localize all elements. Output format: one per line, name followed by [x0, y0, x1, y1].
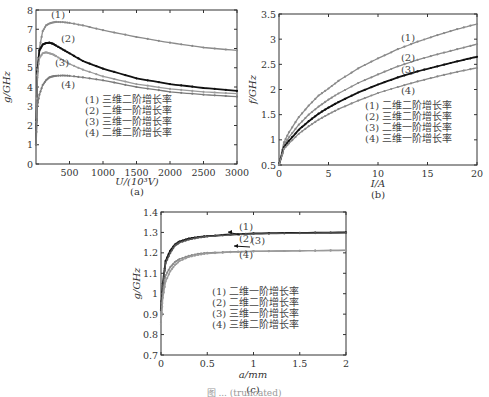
x-axis-label: a/mm — [239, 369, 267, 380]
data-marker — [161, 314, 163, 316]
data-marker — [344, 89, 346, 91]
data-marker — [304, 123, 306, 125]
y-tick-label: 3 — [27, 101, 33, 112]
data-marker — [456, 48, 458, 50]
data-marker — [200, 236, 202, 238]
data-marker — [214, 88, 216, 90]
data-marker — [44, 26, 46, 28]
data-marker — [443, 32, 445, 34]
y-tick-label: 1 — [152, 288, 158, 299]
y-tick-label: 0 — [27, 159, 33, 170]
data-marker — [68, 75, 70, 77]
x-tick-label: 3000 — [225, 167, 249, 178]
data-marker — [113, 78, 115, 80]
data-marker — [456, 60, 458, 62]
data-marker — [469, 25, 471, 27]
data-marker — [57, 21, 59, 23]
y-tick-label: 1.1 — [143, 268, 158, 279]
data-marker — [102, 68, 104, 70]
data-marker — [188, 256, 190, 258]
data-marker — [206, 252, 208, 254]
data-marker — [57, 46, 59, 48]
data-marker — [169, 88, 171, 90]
curve-annotation: (1) — [239, 221, 253, 232]
data-marker — [403, 46, 405, 48]
data-marker — [423, 38, 425, 40]
data-marker — [37, 101, 39, 103]
data-marker — [384, 81, 386, 83]
data-marker — [294, 136, 296, 138]
data-marker — [476, 67, 478, 69]
data-marker — [77, 67, 79, 69]
data-marker — [191, 45, 193, 47]
data-marker — [194, 237, 196, 239]
data-marker — [351, 85, 353, 87]
y-tick-label: 1.4 — [143, 207, 158, 218]
data-marker — [291, 136, 293, 138]
data-marker — [60, 75, 62, 77]
data-marker — [202, 46, 204, 48]
data-marker — [450, 72, 452, 74]
data-marker — [169, 252, 171, 254]
data-marker — [364, 64, 366, 66]
data-marker — [288, 131, 290, 133]
y-tick-label: 1.5 — [261, 109, 276, 120]
data-marker — [39, 90, 41, 92]
data-marker — [124, 74, 126, 76]
data-marker — [377, 73, 379, 75]
data-marker — [163, 291, 165, 293]
data-marker — [364, 89, 366, 91]
curve-annotation: (2) — [401, 52, 415, 63]
data-marker — [390, 68, 392, 70]
data-marker — [430, 67, 432, 69]
data-marker — [331, 85, 333, 87]
data-marker — [41, 87, 43, 89]
data-marker — [327, 87, 329, 89]
data-marker — [345, 249, 347, 251]
data-marker — [288, 136, 290, 138]
data-marker — [166, 259, 168, 261]
y-tick-label: 4 — [27, 82, 33, 93]
data-marker — [197, 237, 199, 239]
data-marker — [178, 242, 180, 244]
data-marker — [291, 139, 293, 141]
data-marker — [62, 74, 64, 76]
data-marker — [160, 323, 162, 325]
data-marker — [188, 239, 190, 241]
data-marker — [364, 97, 366, 99]
data-marker — [469, 45, 471, 47]
data-marker — [225, 48, 227, 50]
data-marker — [318, 106, 320, 108]
data-marker — [60, 21, 62, 23]
data-marker — [169, 266, 171, 268]
data-marker — [314, 250, 316, 252]
data-marker — [180, 92, 182, 94]
data-marker — [327, 107, 329, 109]
data-marker — [314, 232, 316, 234]
data-marker — [288, 142, 290, 144]
data-marker — [377, 83, 379, 85]
data-marker — [135, 83, 137, 85]
data-marker — [357, 100, 359, 102]
data-marker — [298, 116, 300, 118]
data-marker — [164, 286, 166, 288]
y-tick-label: 0.7 — [143, 350, 158, 361]
data-marker — [229, 234, 231, 236]
data-marker — [135, 77, 137, 79]
data-marker — [285, 146, 287, 148]
data-marker — [214, 235, 216, 237]
legend-entry: (3) 三维一阶增长率 — [212, 307, 299, 319]
data-marker — [77, 24, 79, 26]
data-marker — [135, 36, 137, 38]
data-marker — [291, 126, 293, 128]
data-marker — [397, 48, 399, 50]
data-marker — [38, 63, 40, 65]
data-marker — [283, 148, 285, 150]
data-marker — [430, 77, 432, 79]
data-marker — [364, 79, 366, 81]
data-marker — [280, 159, 282, 161]
data-marker — [161, 306, 163, 308]
data-marker — [55, 45, 57, 47]
data-marker — [60, 47, 62, 49]
data-marker — [36, 74, 38, 76]
